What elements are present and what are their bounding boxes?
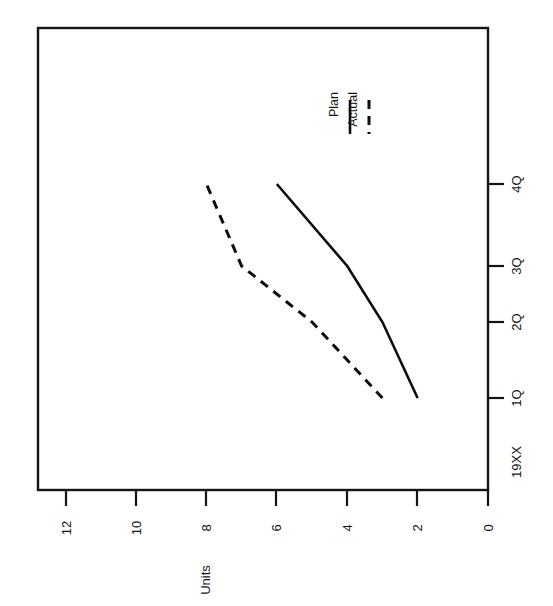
y-tick-label-12: 12 (59, 521, 74, 535)
y-axis-title: Units (198, 565, 213, 595)
chart-background (0, 0, 553, 606)
y-tick-label-10: 10 (129, 521, 144, 535)
y-tick-label-0: 0 (481, 524, 496, 531)
y-tick-label-4: 4 (340, 524, 355, 531)
x-tick-label-3q: 3Q (509, 257, 524, 274)
x-tick-label-19xx: 19XX (509, 446, 524, 478)
y-tick-label-2: 2 (410, 524, 425, 531)
legend-label-plan: Plan (327, 92, 341, 117)
legend-label-actual: Actual (346, 92, 360, 127)
x-tick-label-2q: 2Q (509, 313, 524, 330)
chart-figure: 12 10 8 6 4 2 0 Units 4Q 3Q 2Q 1Q 19XX (0, 0, 553, 606)
line-chart-svg: 12 10 8 6 4 2 0 Units 4Q 3Q 2Q 1Q 19XX (0, 0, 553, 606)
x-tick-label-4q: 4Q (509, 175, 524, 192)
y-tick-label-8: 8 (199, 524, 214, 531)
x-tick-label-1q: 1Q (509, 389, 524, 406)
y-tick-label-6: 6 (269, 524, 284, 531)
